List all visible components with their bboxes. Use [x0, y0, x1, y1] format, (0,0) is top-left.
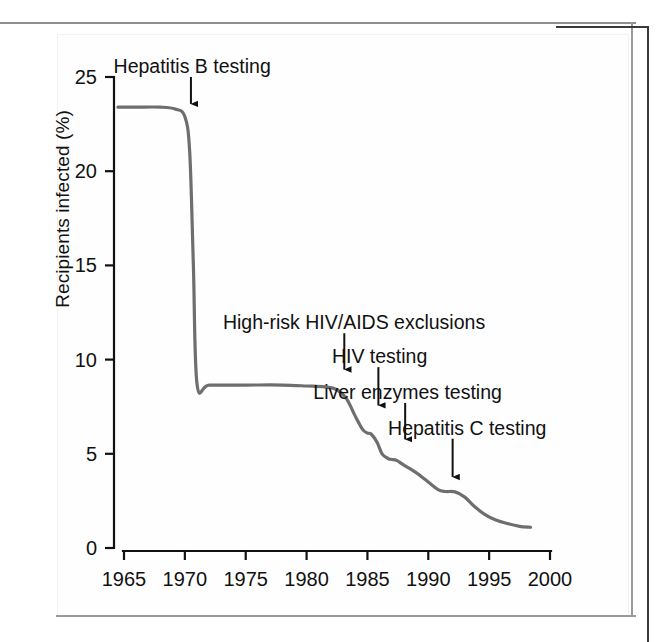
- y-tick-label: 5: [51, 444, 97, 464]
- annotation-label-hepatitis-b-testing: Hepatitis B testing: [114, 57, 271, 77]
- chart-plot-area: Recipients infected (%) 0510152025196519…: [0, 0, 665, 642]
- y-tick-label: 10: [51, 350, 97, 370]
- y-tick-label: 20: [51, 161, 97, 181]
- figure-page: Recipients infected (%) 0510152025196519…: [0, 0, 665, 642]
- y-tick-label: 25: [51, 67, 97, 87]
- annotation-label-high-risk-hiv-aids-exclusions: High-risk HIV/AIDS exclusions: [223, 313, 485, 333]
- y-tick-label: 15: [51, 255, 97, 275]
- y-axis-title: Recipients infected (%): [52, 54, 74, 364]
- annotation-label-liver-enzymes-testing: Liver enzymes testing: [313, 383, 502, 403]
- y-tick-label: 0: [51, 538, 97, 558]
- annotation-label-hiv-testing: HIV testing: [332, 347, 427, 367]
- x-tick-label: 2000: [510, 569, 590, 589]
- annotation-label-hepatitis-c-testing: Hepatitis C testing: [388, 419, 546, 439]
